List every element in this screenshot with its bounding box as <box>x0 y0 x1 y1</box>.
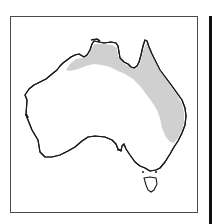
tasmania <box>144 177 157 192</box>
australia-map <box>0 0 212 224</box>
island-king <box>142 171 144 173</box>
island-flinders <box>155 171 157 173</box>
